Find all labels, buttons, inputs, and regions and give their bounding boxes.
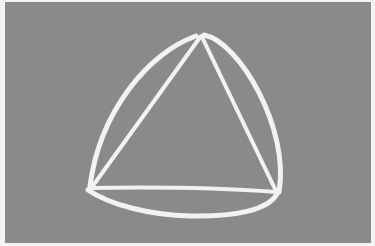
outer-arc-left: [90, 36, 196, 186]
outer-arc-bottom: [88, 190, 277, 216]
inner-edge-bottom: [90, 188, 276, 192]
photo-background: [5, 2, 371, 243]
inner-edge-left: [92, 36, 201, 187]
curved-triangle-drawing: [0, 0, 375, 246]
outer-arc-right: [204, 35, 281, 192]
